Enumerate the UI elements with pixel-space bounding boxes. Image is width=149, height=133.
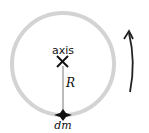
radius-label: R (65, 76, 75, 90)
axis-x-marker-icon (57, 56, 68, 67)
axis-label: axis (52, 44, 74, 57)
rotation-arrow-icon (124, 31, 133, 92)
ring-diagram: axis R dm (0, 0, 149, 133)
mass-element-label: dm (54, 119, 71, 132)
